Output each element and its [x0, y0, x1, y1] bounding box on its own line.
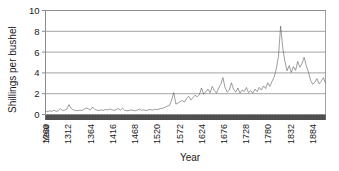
x-axis-year-tick-band	[46, 115, 326, 120]
x-axis-title: Year	[180, 152, 201, 163]
x-axis-tick-labels: Year126013121364141614681520157216241676…	[41, 124, 318, 144]
x-tick-label: 1260	[41, 124, 51, 144]
x-tick-label: 1780	[263, 124, 273, 144]
y-tick-label: 0	[34, 109, 39, 120]
x-tick-label: 1624	[197, 124, 207, 144]
x-tick-label: 1416	[108, 124, 118, 144]
x-tick-label: 1312	[63, 124, 73, 144]
x-tick-label: 1884	[308, 124, 318, 144]
price-chart: Shillings per bushel 0246810 Year1260131…	[0, 0, 339, 171]
y-tick-label: 6	[34, 47, 39, 58]
y-axis-title-text: Shillings per bushel	[7, 26, 18, 113]
y-tick-label: 4	[34, 67, 39, 78]
wheat-price-line	[46, 26, 326, 111]
x-tick-label: 1676	[219, 124, 229, 144]
y-tick-label: 8	[34, 26, 39, 37]
x-tick-label: 1832	[286, 124, 296, 144]
y-axis-title: Shillings per bushel	[7, 26, 18, 113]
y-tick-label: 10	[29, 5, 40, 16]
x-tick-label: 1468	[130, 124, 140, 144]
x-tick-label: 1572	[175, 124, 185, 144]
x-tick-label: 1520	[152, 124, 162, 144]
x-tick-label: 1364	[86, 124, 96, 144]
y-axis-ticks: 0246810	[29, 5, 46, 120]
chart-canvas: Shillings per bushel 0246810 Year1260131…	[0, 0, 339, 171]
x-tick-label: 1728	[241, 124, 251, 144]
y-tick-label: 2	[34, 88, 39, 99]
plot-frame	[46, 10, 327, 115]
